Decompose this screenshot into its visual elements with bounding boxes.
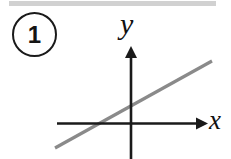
x-axis-label: x [209,107,221,134]
x-axis-arrowhead-icon [196,118,208,130]
graph-line-series [55,61,212,148]
y-axis-label: y [120,9,133,39]
coordinate-graph [0,0,231,159]
y-axis-arrowhead-icon [125,46,137,58]
figure-panel: 1 y x [0,0,231,159]
